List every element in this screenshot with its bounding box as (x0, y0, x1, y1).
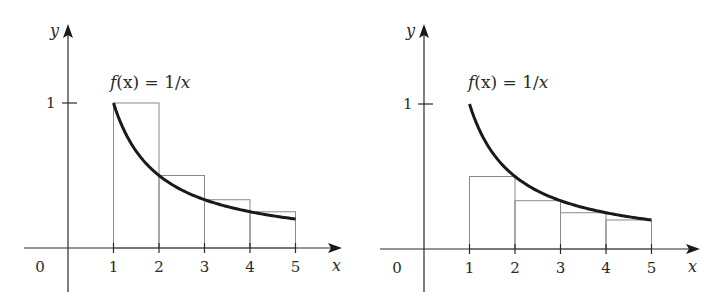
x-axis-label: x (688, 257, 697, 276)
x-tick-label-4: 4 (245, 258, 255, 276)
chart-right-endpoint: 012345 y x 1 f(x) = 1/x (360, 0, 720, 299)
rectangles (470, 177, 652, 250)
function-label: f(x) = 1/x (108, 72, 191, 92)
x-tick-label-2: 2 (154, 258, 164, 276)
y-axis-label: y (49, 21, 60, 40)
x-tick-label-5: 5 (647, 259, 657, 277)
x-tick-label-1: 1 (465, 259, 475, 277)
y-tick-label-1: 1 (403, 95, 413, 113)
riemann-rectangle (470, 177, 516, 250)
x-tick-label-3: 3 (556, 259, 566, 277)
riemann-rectangle (561, 213, 607, 249)
chart-left-endpoint: 012345 y x 1 f(x) = 1/x (0, 0, 360, 299)
rectangles (114, 103, 296, 248)
x-tick-label-0: 0 (35, 258, 45, 276)
x-tick-label-3: 3 (200, 258, 210, 276)
x-tick-label-0: 0 (392, 259, 402, 277)
x-tick-label-4: 4 (601, 259, 611, 277)
y-tick-label-1: 1 (46, 94, 56, 112)
x-tick-label-5: 5 (291, 258, 301, 276)
x-tick-label-1: 1 (109, 258, 119, 276)
x-axis-label: x (332, 256, 341, 275)
riemann-rectangle (606, 220, 652, 249)
function-label: f(x) = 1/x (466, 72, 549, 92)
riemann-rectangle (159, 176, 205, 249)
axes: 012345 (24, 24, 342, 292)
x-tick-label-2: 2 (510, 259, 520, 277)
figure: 012345 y x 1 f(x) = 1/x 012345 y x 1 f(x… (0, 0, 720, 299)
y-axis-label: y (405, 21, 416, 40)
riemann-rectangle (515, 201, 561, 249)
axes: 012345 (380, 24, 700, 292)
